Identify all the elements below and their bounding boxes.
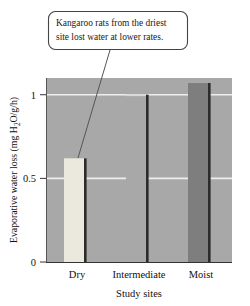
x-tick-label-moist: Moist [189,269,214,280]
bar-moist [188,83,211,262]
bar-intermediate-edge [146,95,149,262]
bar-dry [64,158,87,262]
y-tick-label-0-5: 0.5 [23,173,36,184]
x-axis-title: Study sites [116,288,162,299]
plot-area [46,78,232,263]
bar-moist-body [188,83,210,262]
bar-dry-edge [84,158,87,262]
y-axis-title-part1: Evaporative water loss (mg H [8,126,20,243]
x-tick-label-dry: Dry [69,269,86,280]
bar-intermediate-top [126,95,148,96]
callout-text-line2: site lost water at lower rates. [56,32,163,42]
bar-intermediate-body [126,95,148,262]
figure-container: 1 0.5 0 Evaporative water loss (mg H2O/g… [0,0,250,306]
y-tick-label-1: 1 [31,90,36,101]
bar-intermediate [126,95,149,262]
bar-moist-edge [208,83,211,262]
x-tick-label-intermediate: Intermediate [112,269,165,280]
y-tick-label-0: 0 [31,257,36,268]
y-axis-title-part2: O/g/h) [8,97,20,123]
callout-balloon: Kangaroo rats from the driest site lost … [49,12,188,50]
bar-dry-body [64,158,86,262]
callout-text-line1: Kangaroo rats from the driest [56,18,167,28]
